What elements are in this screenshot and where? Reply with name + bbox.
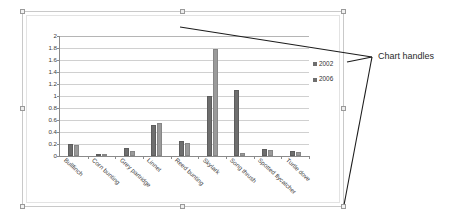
y-axis-tick-label: 0.8 bbox=[48, 105, 57, 111]
handle-bottom-left[interactable] bbox=[20, 204, 25, 209]
screenshot-canvas: 00.20.40.60.811.21.41.61.82 BullfinchCor… bbox=[0, 0, 469, 223]
handle-middle-right[interactable] bbox=[341, 106, 346, 111]
bar-group[interactable] bbox=[115, 36, 143, 156]
square-marker-icon bbox=[313, 62, 317, 66]
legend-entry-2006[interactable]: 2006 bbox=[313, 76, 347, 82]
handle-top-left[interactable] bbox=[20, 9, 25, 14]
bar-2006[interactable] bbox=[240, 153, 245, 156]
x-axis-category-label: Song thrush bbox=[229, 157, 258, 184]
annotation-chart-handles: Chart handles bbox=[378, 51, 434, 61]
legend-label: 2002 bbox=[319, 61, 333, 67]
bar-2002[interactable] bbox=[96, 154, 101, 156]
bar-2002[interactable] bbox=[234, 90, 239, 156]
chart-legend[interactable]: 2002 2006 bbox=[313, 61, 347, 92]
y-axis-labels: 00.20.40.60.811.21.41.61.82 bbox=[35, 36, 57, 157]
bar-group[interactable] bbox=[226, 36, 254, 156]
y-axis-tick-label: 1.6 bbox=[48, 57, 57, 63]
bar-group[interactable] bbox=[143, 36, 171, 156]
chart-area: 00.20.40.60.811.21.41.61.82 BullfinchCor… bbox=[35, 24, 337, 204]
x-axis-category-label: Turtle dove bbox=[284, 157, 311, 182]
legend-entry-2002[interactable]: 2002 bbox=[313, 61, 347, 67]
bar-group[interactable] bbox=[281, 36, 309, 156]
y-axis-tick-label: 1.4 bbox=[48, 69, 57, 75]
x-axis-category-label: Reed bunting bbox=[174, 157, 205, 187]
bar-2002[interactable] bbox=[262, 149, 267, 156]
chart-plot-frame: 00.20.40.60.811.21.41.61.82 BullfinchCor… bbox=[26, 15, 340, 203]
bar-group[interactable] bbox=[198, 36, 226, 156]
x-axis-category-label: Skylark bbox=[201, 157, 220, 175]
bar-group[interactable] bbox=[88, 36, 116, 156]
handle-top-right[interactable] bbox=[341, 9, 346, 14]
handle-top-center[interactable] bbox=[180, 9, 185, 14]
handle-middle-left[interactable] bbox=[20, 106, 25, 111]
x-axis-category-label: Corn bunting bbox=[91, 157, 121, 186]
y-axis-tick-label: 0.4 bbox=[48, 129, 57, 135]
y-axis-tick-label: 1.8 bbox=[48, 45, 57, 51]
bar-2006[interactable] bbox=[185, 143, 190, 156]
bar-2002[interactable] bbox=[124, 148, 129, 156]
bar-2002[interactable] bbox=[151, 125, 156, 156]
bar-2006[interactable] bbox=[74, 145, 79, 156]
x-axis-category-label: Bullfinch bbox=[63, 157, 84, 177]
y-axis-tick-label: 0.2 bbox=[48, 141, 57, 147]
bar-2006[interactable] bbox=[213, 49, 218, 156]
y-axis-tick-label: 1.2 bbox=[48, 81, 57, 87]
bar-2002[interactable] bbox=[290, 151, 295, 156]
bar-2002[interactable] bbox=[207, 96, 212, 156]
legend-label: 2006 bbox=[319, 76, 333, 82]
plot-area bbox=[59, 36, 309, 157]
bar-2006[interactable] bbox=[296, 152, 301, 156]
bar-2006[interactable] bbox=[102, 154, 107, 156]
bar-2006[interactable] bbox=[157, 123, 162, 156]
bar-group[interactable] bbox=[60, 36, 88, 156]
bar-2002[interactable] bbox=[179, 141, 184, 156]
handle-bottom-center[interactable] bbox=[180, 204, 185, 209]
y-axis-tick-label: 0.6 bbox=[48, 117, 57, 123]
bar-group[interactable] bbox=[254, 36, 282, 156]
x-axis-tick bbox=[309, 156, 310, 159]
square-marker-icon bbox=[313, 78, 317, 82]
bar-group[interactable] bbox=[171, 36, 199, 156]
chart-object-selected[interactable]: 00.20.40.60.811.21.41.61.82 BullfinchCor… bbox=[22, 11, 344, 207]
bar-2006[interactable] bbox=[130, 151, 135, 156]
handle-bottom-right[interactable] bbox=[341, 204, 346, 209]
bar-2002[interactable] bbox=[68, 144, 73, 156]
bar-2006[interactable] bbox=[268, 150, 273, 156]
x-axis-category-label: Linnet bbox=[146, 157, 163, 173]
